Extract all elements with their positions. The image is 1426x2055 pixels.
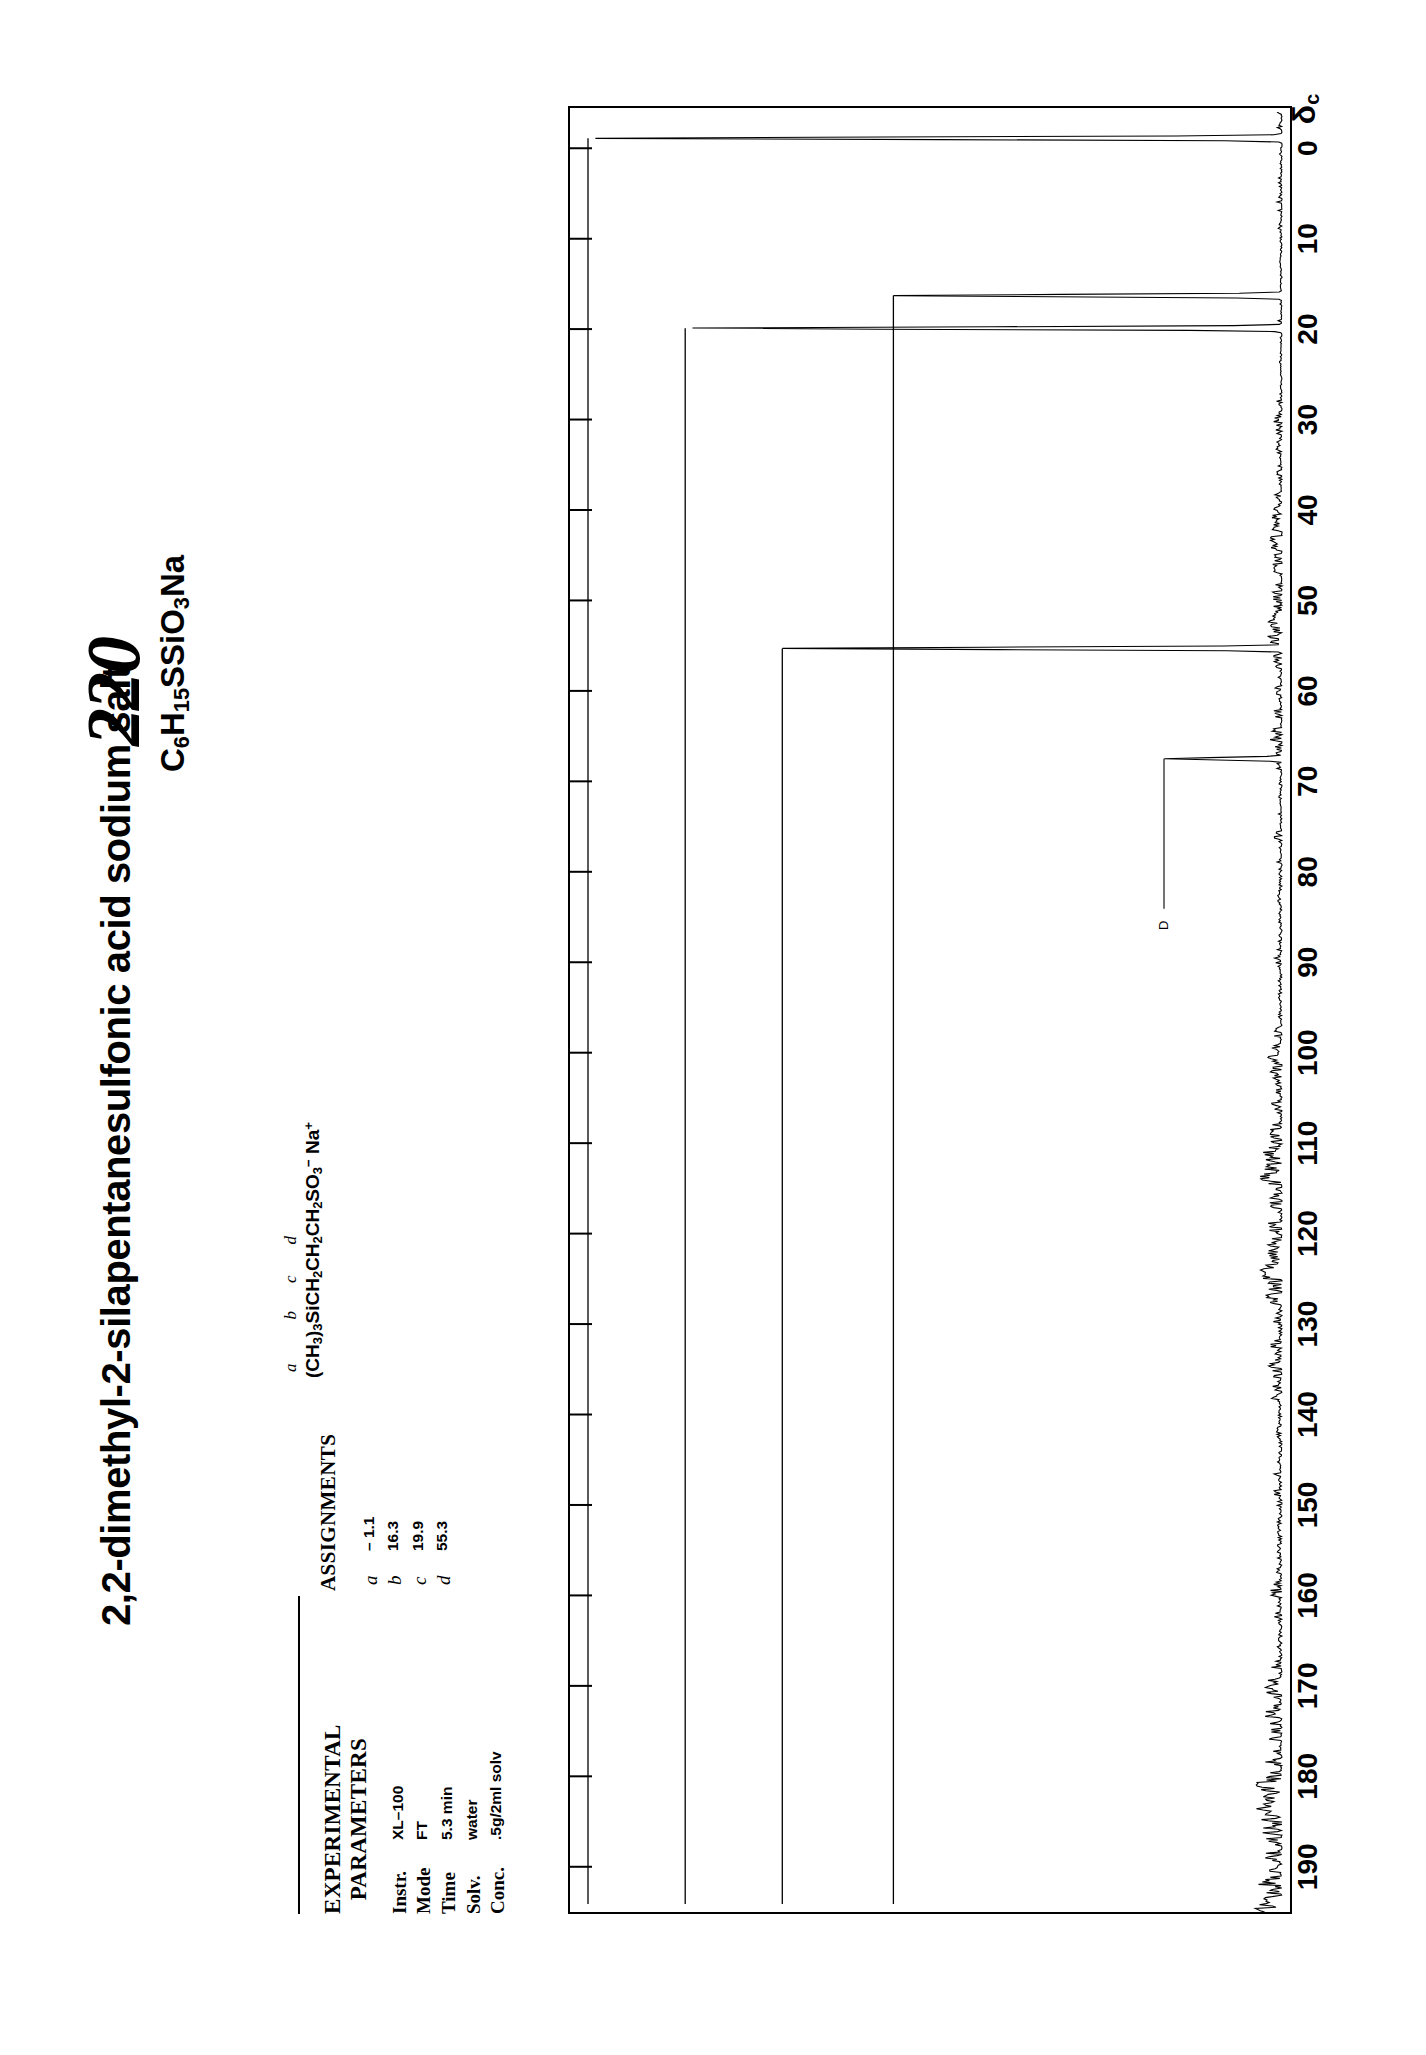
param-value: .5g/2ml solv: [486, 1751, 511, 1840]
param-key: Time: [437, 1840, 462, 1914]
catalog-number: 220: [70, 638, 157, 746]
spectrum-svg: D: [570, 112, 1286, 1912]
assignment-key: a: [359, 1551, 383, 1585]
x-axis-tick-label: 70: [1292, 765, 1324, 796]
x-axis-tick-label: 80: [1292, 856, 1324, 887]
param-key: Instr.: [388, 1840, 413, 1914]
param-key: Mode: [412, 1840, 437, 1914]
x-axis-tick-label: 140: [1292, 1391, 1324, 1438]
param-value: 5.3 min: [437, 1786, 462, 1839]
x-axis-tick-label: 50: [1292, 584, 1324, 615]
param-key: Conc.: [486, 1840, 511, 1914]
param-value: FT: [412, 1821, 437, 1840]
assignment-key: d: [432, 1551, 456, 1585]
x-axis-tick-label: 130: [1292, 1300, 1324, 1347]
table-row: c 19.9: [408, 1433, 432, 1584]
x-axis-tick-label: 40: [1292, 494, 1324, 525]
param-value: XL–100: [388, 1785, 413, 1839]
x-axis-tick-label: 120: [1292, 1210, 1324, 1257]
x-axis-tick-label: 0: [1292, 140, 1324, 156]
experimental-parameters-table: Instr. XL–100 Mode FT Time 5.3 min Solv.…: [388, 1724, 511, 1914]
x-axis-tick-label: 60: [1292, 675, 1324, 706]
x-axis-title: δc: [1286, 93, 1324, 123]
table-row: Solv. water: [462, 1724, 487, 1914]
table-row: a – 1.1: [359, 1433, 383, 1584]
x-axis-tick-label: 100: [1292, 1029, 1324, 1076]
dioxane-annotation: D: [1156, 920, 1171, 929]
molecular-formula: C6H15SSiO3Na: [154, 554, 195, 771]
spectrum-trace: [595, 112, 1282, 1912]
x-axis-tick-label: 170: [1292, 1662, 1324, 1709]
x-axis-tick-label: 160: [1292, 1572, 1324, 1619]
assignments-block: ASSIGNMENTS a – 1.1 b 16.3 c 19.9 d 55.3: [316, 1433, 456, 1590]
param-key: Solv.: [462, 1840, 487, 1914]
x-axis-tick-labels: 0102030405060708090100110120130140150160…: [1292, 110, 1342, 1914]
table-row: b 16.3: [383, 1433, 407, 1584]
structure-atom-letters: abcd: [280, 1121, 301, 1377]
x-axis-tick-label: 110: [1292, 1120, 1324, 1165]
x-axis-tick-label: 20: [1292, 313, 1324, 344]
x-axis-tick-label: 90: [1292, 946, 1324, 977]
experimental-parameters-block: EXPERIMENTAL PARAMETERS Instr. XL–100 Mo…: [320, 1724, 511, 1914]
assignment-key: c: [408, 1551, 432, 1585]
assignment-key: b: [383, 1551, 407, 1585]
x-axis-tick-label: 150: [1292, 1481, 1324, 1528]
experimental-parameters-heading: EXPERIMENTAL PARAMETERS: [320, 1724, 372, 1914]
page-title: 2,2-dimethyl-2-silapentanesulfonic acid …: [94, 666, 139, 1626]
structure-formula: (CH3)3SiCH2CH2CH2SO3− Na+: [302, 1121, 323, 1377]
nmr-spectrum-plot: D: [568, 106, 1292, 1914]
chemical-structure: abcd (CH3)3SiCH2CH2CH2SO3− Na+: [280, 1121, 327, 1377]
table-row: d 55.3: [432, 1433, 456, 1584]
spectrum-sheet: 2,2-dimethyl-2-silapentanesulfonic acid …: [48, 38, 1378, 2018]
table-row: Time 5.3 min: [437, 1724, 462, 1914]
x-axis-tick-label: 190: [1292, 1843, 1324, 1890]
assignment-value: 55.3: [432, 1520, 456, 1550]
x-axis-tick-label: 10: [1292, 223, 1324, 254]
header-divider: [298, 1596, 300, 1914]
table-row: Conc. .5g/2ml solv: [486, 1724, 511, 1914]
x-axis-tick-label: 30: [1292, 403, 1324, 434]
table-row: Mode FT: [412, 1724, 437, 1914]
table-row: Instr. XL–100: [388, 1724, 413, 1914]
param-value: water: [462, 1799, 487, 1840]
assignments-table: a – 1.1 b 16.3 c 19.9 d 55.3: [359, 1433, 456, 1584]
assignments-heading: ASSIGNMENTS: [316, 1433, 341, 1590]
x-axis-tick-label: 180: [1292, 1752, 1324, 1799]
assignment-value: 19.9: [408, 1520, 432, 1550]
assignment-value: – 1.1: [359, 1516, 383, 1550]
assignment-value: 16.3: [383, 1520, 407, 1550]
